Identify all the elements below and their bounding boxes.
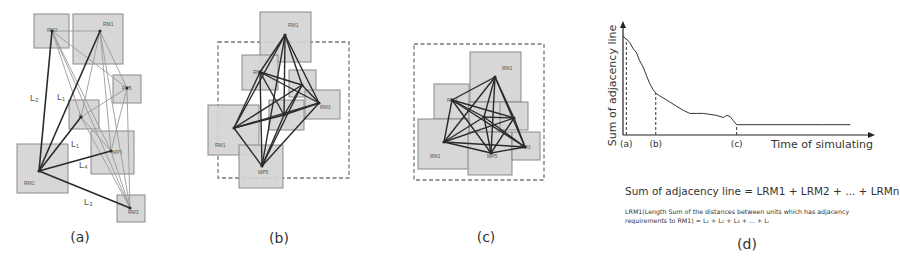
- y-axis-arrow-icon: [620, 21, 626, 28]
- x-tick-label: (c): [731, 139, 743, 149]
- caption-d: (d): [727, 236, 767, 252]
- x-axis-label: Time of simulating: [770, 138, 873, 151]
- room-label: RM1: [24, 180, 35, 186]
- adjacency-line-chart: (a)(b)(c)Time of simulatingSum of adjace…: [0, 0, 873, 180]
- length-label: L₃: [84, 197, 93, 207]
- room-node: [128, 206, 131, 209]
- x-tick-label: (a): [620, 139, 633, 149]
- x-tick-label: (b): [649, 139, 662, 149]
- caption-b: (b): [259, 230, 299, 246]
- caption-a: (a): [60, 229, 100, 245]
- panel-d-chart: (a)(b)(c)Time of simulatingSum of adjace…: [0, 0, 873, 180]
- room-label: RM3: [128, 209, 139, 215]
- series-line: [623, 36, 850, 125]
- formula-sum-adjacency: Sum of adjacency line = LRM1 + LRM2 + ..…: [625, 185, 900, 197]
- formula-lrm1-definition: LRM1(Length Sum of the distances between…: [625, 207, 865, 225]
- caption-c: (c): [466, 229, 506, 245]
- chart-plot: (a)(b)(c)Time of simulatingSum of adjace…: [606, 21, 875, 151]
- y-axis-label: Sum of adjacency line: [606, 25, 619, 147]
